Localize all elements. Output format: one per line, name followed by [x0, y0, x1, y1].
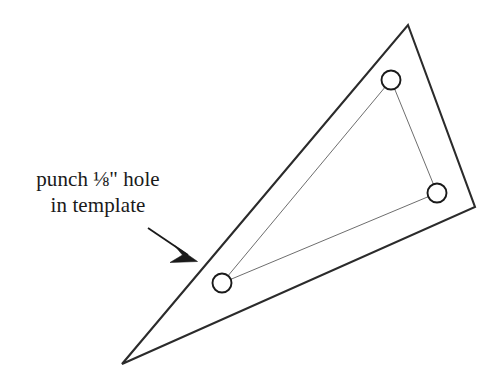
hole-right	[428, 184, 447, 203]
hole-connector-triangle	[222, 80, 437, 283]
annotation-line-1: punch ⅛" hole	[8, 166, 188, 192]
annotation-label: punch ⅛" hole in template	[8, 166, 188, 218]
diagram-canvas: punch ⅛" hole in template	[0, 0, 504, 378]
hole-top	[382, 71, 401, 90]
hole-bottom-left	[213, 274, 232, 293]
leader-arrow	[148, 228, 198, 263]
annotation-line-2: in template	[8, 192, 188, 218]
leader-arrow-head	[170, 246, 198, 263]
